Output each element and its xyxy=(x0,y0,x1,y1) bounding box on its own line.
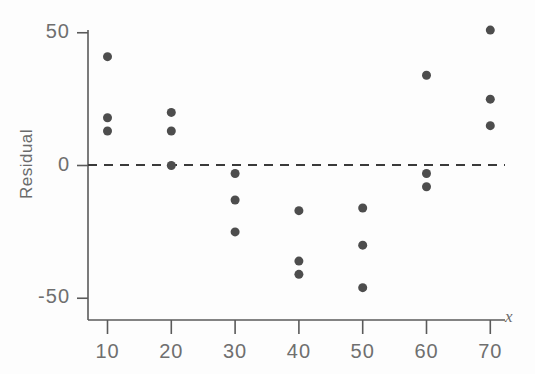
data-point xyxy=(294,270,303,279)
data-point xyxy=(422,169,431,178)
y-tick-label: 50 xyxy=(10,20,70,43)
data-point xyxy=(422,71,431,80)
x-tick-label: 20 xyxy=(141,340,201,363)
data-point-group xyxy=(103,26,495,293)
data-point xyxy=(231,169,240,178)
data-point xyxy=(167,108,176,117)
data-point xyxy=(167,161,176,170)
y-tick-marks xyxy=(77,33,88,299)
x-tick-label: 60 xyxy=(397,340,457,363)
data-point xyxy=(103,113,112,122)
data-point xyxy=(486,26,495,35)
data-point xyxy=(358,283,367,292)
data-point xyxy=(294,257,303,266)
x-tick-label: 50 xyxy=(333,340,393,363)
x-tick-label: 30 xyxy=(205,340,265,363)
y-tick-label: -50 xyxy=(10,285,70,308)
residual-plot-figure: 500-50 10203040506070 Residual x xyxy=(0,0,535,374)
chart-canvas xyxy=(0,0,535,374)
x-tick-label: 10 xyxy=(78,340,138,363)
x-axis-title: x xyxy=(505,307,513,327)
data-point xyxy=(294,206,303,215)
plot-area: 500-50 10203040506070 Residual x xyxy=(0,0,535,374)
data-point xyxy=(231,196,240,205)
x-tick-marks xyxy=(108,320,491,334)
data-point xyxy=(486,95,495,104)
x-tick-label: 70 xyxy=(460,340,520,363)
y-axis-title: Residual xyxy=(17,119,37,209)
data-point xyxy=(103,52,112,61)
data-point xyxy=(167,126,176,135)
data-point xyxy=(358,203,367,212)
data-point xyxy=(231,227,240,236)
data-point xyxy=(486,121,495,130)
data-point xyxy=(103,126,112,135)
data-point xyxy=(358,241,367,250)
data-point xyxy=(422,182,431,191)
x-tick-label: 40 xyxy=(269,340,329,363)
